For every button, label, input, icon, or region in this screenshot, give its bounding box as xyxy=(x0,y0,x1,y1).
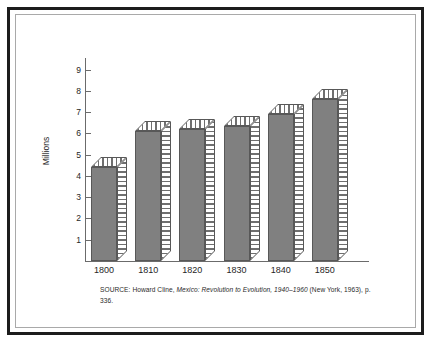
bar-front-face xyxy=(224,126,250,261)
bar-front-face xyxy=(312,99,338,261)
bar-front-face xyxy=(91,167,117,261)
x-axis-line xyxy=(85,261,369,262)
y-axis-tick-label: 3 xyxy=(65,193,81,202)
screenshot-page: Millions 123456789 180018101820183018401… xyxy=(0,0,431,342)
x-axis-tick-label: 1800 xyxy=(83,266,125,275)
source-note: SOURCE: Howard Cline, Mexico: Revolution… xyxy=(100,285,380,306)
bar-side-face xyxy=(294,104,304,261)
bar-1810 xyxy=(135,121,171,261)
y-axis-tick-label: 9 xyxy=(65,66,81,75)
bar-front-face xyxy=(268,114,294,261)
bar-1800 xyxy=(91,157,127,261)
bar-1850 xyxy=(312,89,348,261)
bar-side-face xyxy=(117,157,127,261)
bar-front-face xyxy=(135,131,161,261)
bar-side-face xyxy=(338,89,348,261)
bar-front-face xyxy=(179,129,205,261)
x-axis-tick-label: 1830 xyxy=(216,266,258,275)
plot-area xyxy=(85,58,350,261)
y-axis-tick-label: 5 xyxy=(65,151,81,160)
bar-side-face xyxy=(161,121,171,261)
source-author: Howard Cline, xyxy=(132,286,174,293)
bar-chart-figure: Millions 123456789 180018101820183018401… xyxy=(15,14,416,328)
source-label: SOURCE: xyxy=(100,286,130,293)
x-axis-tick-label: 1850 xyxy=(304,266,346,275)
bar-side-face xyxy=(205,119,215,261)
y-axis-tick-label: 8 xyxy=(65,87,81,96)
y-axis-tick-label: 7 xyxy=(65,108,81,117)
bar-1820 xyxy=(179,119,215,261)
x-axis-tick-label: 1840 xyxy=(260,266,302,275)
y-axis-title: Millions xyxy=(41,116,51,186)
bar-1840 xyxy=(268,104,304,261)
bar-side-face xyxy=(250,116,260,261)
x-axis-tick-label: 1820 xyxy=(171,266,213,275)
y-axis-tick-label: 2 xyxy=(65,214,81,223)
y-axis-tick-label: 4 xyxy=(65,172,81,181)
x-axis-tick-label: 1810 xyxy=(127,266,169,275)
source-title: Mexico: Revolution to Evolution, 1940–19… xyxy=(176,286,307,293)
y-axis-tick-label: 6 xyxy=(65,129,81,138)
bar-1830 xyxy=(224,116,260,261)
y-axis-tick-label: 1 xyxy=(65,236,81,245)
